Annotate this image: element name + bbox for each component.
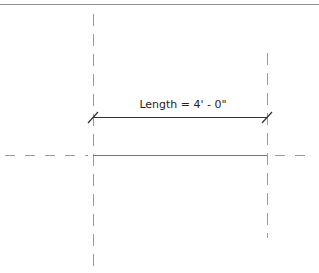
dimension-label[interactable]: Length = 4' - 0" — [118, 98, 248, 111]
drawing-canvas[interactable]: Length = 4' - 0" — [0, 0, 319, 273]
